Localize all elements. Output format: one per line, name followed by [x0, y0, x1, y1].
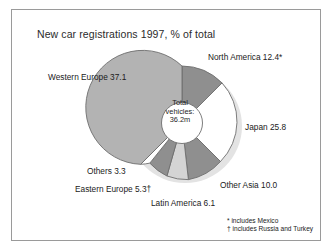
page-title: New car registrations 1997, % of total	[37, 28, 215, 40]
slice-label-others: Others 3.3	[87, 166, 126, 176]
slice-label-japan: Japan 25.8	[245, 122, 286, 132]
footnote-russia-turkey: † includes Russia and Turkey	[227, 225, 313, 233]
pie-center-hole	[162, 103, 203, 144]
slice-label-western-europe: Western Europe 37.1	[48, 72, 126, 82]
slice-label-eastern-europe: Eastern Europe 5.3†	[75, 184, 151, 194]
footnotes: * includes Mexico † includes Russia and …	[227, 217, 313, 234]
footnote-mexico: * includes Mexico	[227, 217, 313, 225]
slice-label-north-america: North America 12.4*	[208, 52, 282, 62]
slice-label-latin-america: Latin America 6.1	[151, 198, 215, 208]
screenshot-root: New car registrations 1997, % of total	[0, 0, 330, 244]
pie-chart-svg	[116, 57, 248, 189]
pie-chart: Total vehicles: 36.2m	[116, 57, 248, 189]
slice-label-other-asia: Other Asia 10.0	[220, 180, 277, 190]
pie-slices	[86, 50, 237, 179]
chart-frame: New car registrations 1997, % of total	[11, 9, 321, 241]
